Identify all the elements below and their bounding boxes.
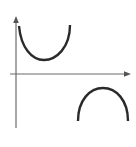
graph-svg bbox=[0, 0, 136, 147]
lower-curve bbox=[78, 88, 128, 121]
y-axis bbox=[13, 16, 19, 128]
upper-curve bbox=[19, 25, 70, 60]
x-axis-arrow-icon bbox=[124, 71, 131, 77]
graph-diagram bbox=[0, 0, 136, 147]
y-axis-arrow-icon bbox=[13, 16, 19, 23]
x-axis bbox=[10, 71, 131, 77]
